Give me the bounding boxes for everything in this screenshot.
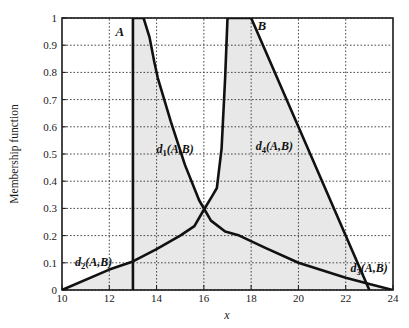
x-tick-label: 24 [388, 292, 400, 304]
y-tick-label: 0.8 [43, 66, 57, 78]
annotation-d3: d3(A,B) [350, 261, 387, 277]
x-tick-label: 20 [293, 292, 305, 304]
x-tick-label: 10 [57, 292, 69, 304]
y-tick-label: 0.9 [43, 39, 57, 51]
x-axis-title: x [223, 308, 230, 322]
y-tick-label: 0.7 [43, 94, 57, 106]
set-label-a: A [115, 24, 125, 39]
x-tick-label: 22 [340, 292, 351, 304]
y-axis-title: Membership function [8, 104, 21, 204]
y-tick-label: 0.5 [43, 148, 57, 160]
x-tick-label: 12 [104, 292, 115, 304]
x-tick-label: 16 [198, 292, 210, 304]
y-tick-label: 0.3 [43, 202, 57, 214]
set-label-b: B [256, 18, 266, 33]
y-tick-label: 1 [52, 12, 58, 24]
x-tick-labels: 1012141618202224 [57, 292, 400, 304]
y-tick-label: 0.1 [43, 257, 57, 269]
annotation-d2: d2(A,B) [75, 255, 112, 271]
x-tick-label: 18 [246, 292, 258, 304]
annotation-d4: d4(A,B) [256, 139, 293, 155]
y-tick-labels: 00.10.20.30.40.50.60.70.80.91 [43, 12, 57, 296]
y-tick-label: 0.4 [43, 175, 57, 187]
y-tick-label: 0.2 [43, 230, 57, 242]
membership-function-chart: 1012141618202224 00.10.20.30.40.50.60.70… [0, 0, 409, 328]
y-tick-label: 0 [52, 284, 58, 296]
annotation-d1: d1(A,B) [157, 142, 194, 158]
y-tick-label: 0.6 [43, 121, 57, 133]
x-tick-label: 14 [151, 292, 163, 304]
